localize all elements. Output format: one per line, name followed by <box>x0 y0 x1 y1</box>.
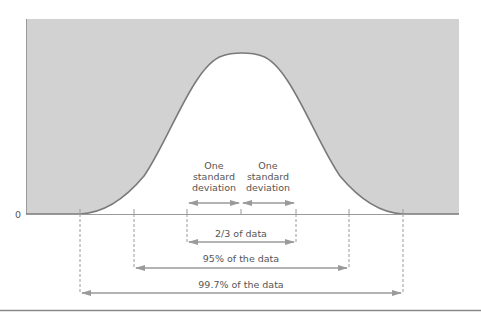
y-axis-zero-label: 0 <box>15 209 21 220</box>
svg-text:One: One <box>204 160 223 171</box>
svg-text:deviation: deviation <box>246 182 290 193</box>
svg-text:deviation: deviation <box>192 182 236 193</box>
normal-distribution-diagram: 0 One standard deviation One standard de… <box>0 0 481 317</box>
svg-text:One: One <box>258 160 277 171</box>
svg-text:standard: standard <box>247 171 289 182</box>
range-label-2sd: 95% of the data <box>203 253 279 264</box>
shaded-region <box>26 19 459 214</box>
range-label-3sd: 99.7% of the data <box>198 279 283 290</box>
range-label-1sd: 2/3 of data <box>215 228 267 239</box>
sd-label-left: One standard deviation <box>192 160 236 193</box>
axis-ticks <box>80 209 403 214</box>
sd-label-right: One standard deviation <box>246 160 290 193</box>
svg-text:standard: standard <box>193 171 235 182</box>
